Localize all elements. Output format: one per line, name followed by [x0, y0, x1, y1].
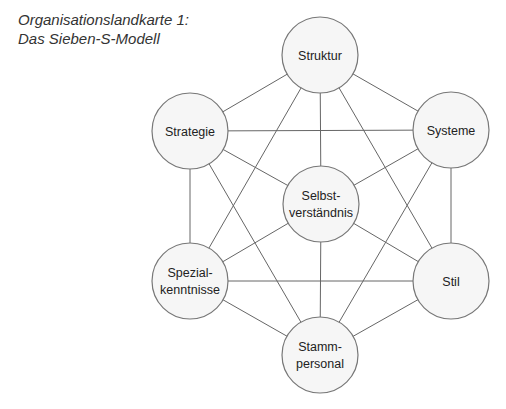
model-nodes: StrukturStrategieSystemeSelbst-verständn…: [152, 17, 489, 393]
node-circle: [152, 243, 228, 319]
node-label: Stamm-: [298, 340, 342, 354]
node-selbstverstaendnis: Selbst-verständnis: [283, 166, 359, 242]
node-strategie: Strategie: [152, 93, 228, 169]
node-circle: [282, 317, 358, 393]
node-label: Stil: [442, 275, 459, 289]
node-circle: [283, 166, 359, 242]
node-stil: Stil: [413, 243, 489, 319]
node-systeme: Systeme: [413, 92, 489, 168]
node-label: kenntnisse: [160, 283, 220, 297]
node-label: Struktur: [298, 49, 342, 63]
node-stammpersonal: Stamm-personal: [282, 317, 358, 393]
node-label: Systeme: [427, 124, 476, 138]
edge-struktur-spezialkenntnisse: [190, 55, 320, 281]
node-label: Spezial-: [167, 266, 212, 280]
node-label: verständnis: [289, 206, 353, 220]
node-spezialkenntnisse: Spezial-kenntnisse: [152, 243, 228, 319]
edge-struktur-stil: [320, 55, 451, 281]
edge-strategie-systeme: [190, 130, 451, 131]
node-label: Selbst-: [302, 189, 341, 203]
node-label: personal: [296, 357, 344, 371]
node-label: Strategie: [165, 125, 215, 139]
node-struktur: Struktur: [282, 17, 358, 93]
seven-s-model-diagram: StrukturStrategieSystemeSelbst-verständn…: [0, 0, 506, 409]
